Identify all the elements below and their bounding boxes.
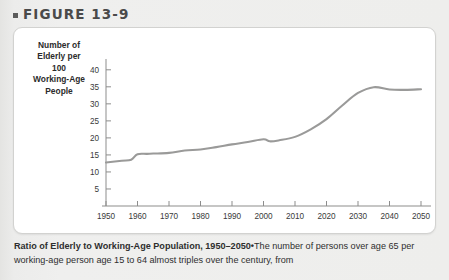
x-tick-label-1990: 1990: [223, 212, 242, 221]
x-tick-label-1980: 1980: [191, 212, 210, 221]
y-tick-label-20: 20: [90, 134, 100, 143]
plot-area: 5101520253035401950196019701980199020002…: [14, 28, 437, 235]
square-bullet-icon: [13, 13, 18, 18]
x-tick-label-2000: 2000: [254, 212, 273, 221]
figure-caption: Ratio of Elderly to Working-Age Populati…: [14, 240, 438, 267]
x-tick-label-2030: 2030: [349, 212, 368, 221]
x-tick-label-2010: 2010: [286, 212, 305, 221]
data-series-line: [106, 87, 421, 162]
figure-page: FIGURE 13-9 Number of Elderly per 100 Wo…: [0, 0, 449, 280]
x-tick-label-2020: 2020: [317, 212, 336, 221]
caption-text-part-1: The number of persons: [254, 241, 348, 251]
figure-header: FIGURE 13-9: [13, 6, 130, 22]
chart-panel: Number of Elderly per 100 Working-Age Pe…: [13, 27, 436, 234]
line-chart: 5101520253035401950196019701980199020002…: [14, 28, 437, 235]
y-tick-label-15: 15: [90, 151, 100, 160]
x-tick-label-2050: 2050: [412, 212, 431, 221]
y-tick-label-30: 30: [90, 100, 100, 109]
y-tick-label-35: 35: [90, 83, 100, 92]
x-tick-label-1960: 1960: [128, 212, 147, 221]
x-tick-label-1970: 1970: [160, 212, 179, 221]
x-tick-label-2040: 2040: [380, 212, 399, 221]
y-tick-label-5: 5: [94, 185, 99, 194]
y-tick-label-10: 10: [90, 168, 100, 177]
figure-number-label: FIGURE 13-9: [23, 6, 130, 22]
y-tick-label-25: 25: [90, 117, 100, 126]
x-tick-label-1950: 1950: [97, 212, 116, 221]
y-tick-label-40: 40: [90, 66, 100, 75]
caption-title: Ratio of Elderly to Working-Age Populati…: [14, 241, 251, 251]
